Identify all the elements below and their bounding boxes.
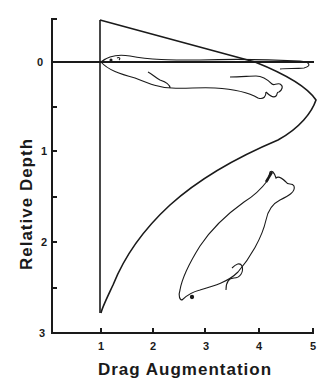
x-tick-label-4: 4 — [256, 340, 263, 352]
drag-depth-curve — [100, 20, 316, 313]
x-tick-label-5: 5 — [310, 340, 316, 352]
y-axis-title: Relative Depth — [17, 138, 36, 270]
y-tick-label-1: 1 — [41, 145, 47, 157]
x-tick-label-2: 2 — [150, 340, 156, 352]
drag-depth-chart: 0 1 2 3 1 2 3 4 5 Drag Augmentation Rela… — [0, 0, 331, 386]
y-tick-label-3: 3 — [39, 327, 45, 339]
y-tick-label-0: 0 — [37, 56, 43, 68]
y-tick-label-2: 2 — [41, 236, 47, 248]
diving-seal-illustration — [179, 171, 294, 300]
x-tick-label-3: 3 — [203, 340, 209, 352]
x-tick-label-1: 1 — [98, 340, 104, 352]
x-axis-title: Drag Augmentation — [98, 360, 272, 379]
